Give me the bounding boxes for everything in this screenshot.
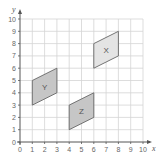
y-axis-label: y	[11, 5, 16, 14]
y-tick-label: 5	[12, 77, 16, 84]
shape-label: Y	[42, 83, 48, 92]
y-tick-label: 8	[12, 40, 16, 47]
y-tick-label: 10	[8, 16, 16, 23]
x-tick-label: 1	[30, 146, 34, 153]
x-tick-label: 0	[18, 146, 22, 153]
x-tick-label: 7	[104, 146, 108, 153]
shape-label: Z	[79, 107, 84, 116]
x-tick-label: 10	[139, 146, 147, 153]
x-axis-label: x	[151, 144, 156, 153]
x-tick-label: 4	[67, 146, 71, 153]
tick-labels: 012345678910012345678910	[8, 16, 147, 154]
coordinate-grid-diagram: x y 012345678910012345678910 XYZ	[0, 0, 159, 161]
y-axis-arrow-icon	[18, 9, 22, 14]
x-tick-label: 8	[116, 146, 120, 153]
y-tick-label: 7	[12, 52, 16, 59]
y-tick-label: 0	[12, 139, 16, 146]
y-tick-label: 6	[12, 65, 16, 72]
y-tick-label: 9	[12, 28, 16, 35]
y-tick-label: 2	[12, 114, 16, 121]
shape-label: X	[103, 46, 109, 55]
y-tick-label: 4	[12, 89, 16, 96]
x-tick-label: 5	[80, 146, 84, 153]
x-tick-label: 2	[43, 146, 47, 153]
axes: x y	[11, 5, 156, 153]
x-tick-label: 3	[55, 146, 59, 153]
x-tick-label: 9	[129, 146, 133, 153]
y-tick-label: 3	[12, 102, 16, 109]
x-tick-label: 6	[92, 146, 96, 153]
y-tick-label: 1	[12, 126, 16, 133]
